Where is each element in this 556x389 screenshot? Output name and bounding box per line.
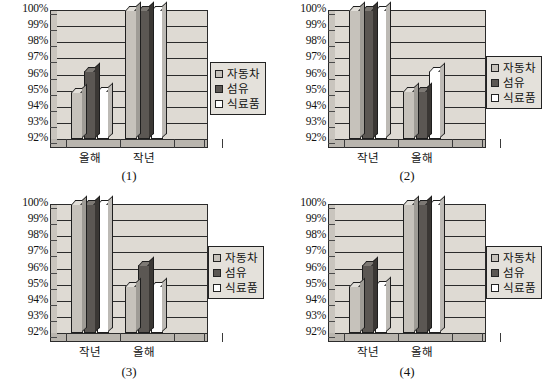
y-axis-tick-label: 93%	[6, 310, 48, 320]
plot-floor	[328, 139, 486, 148]
y-axis-tick-label: 94%	[284, 100, 326, 110]
axis-tick-mark	[328, 337, 335, 338]
y-axis-tick-label: 96%	[6, 262, 48, 272]
panel-caption-3: (3)	[0, 364, 268, 380]
legend-item-food: 식료품	[213, 280, 258, 295]
bar-side-face	[162, 1, 167, 138]
legend-swatch-icon-food	[491, 284, 499, 292]
legend-item-automobile: 자동차	[213, 250, 258, 265]
legend-swatch-icon-automobile	[491, 64, 499, 72]
floor-tick-mark	[222, 139, 223, 148]
y-axis-tick-label: 95%	[284, 278, 326, 288]
floor-tick-mark	[344, 333, 345, 342]
category-label: 올해	[63, 149, 117, 165]
y-axis-tick-label: 92%	[284, 132, 326, 142]
axis-tick-mark	[50, 111, 57, 112]
legend-item-food: 식료품	[491, 90, 536, 105]
bar-automobile	[125, 10, 137, 139]
y-axis-tick-label: 92%	[6, 132, 48, 142]
y-axis-tick-label: 97%	[284, 51, 326, 61]
axis-tick-mark	[50, 256, 57, 257]
y-axis-tick-label: 99%	[6, 213, 48, 223]
y-axis-tick-label: 99%	[284, 19, 326, 29]
gridline	[335, 333, 485, 334]
legend-item-food: 식료품	[491, 280, 536, 295]
y-axis-tick-label: 100%	[284, 3, 326, 13]
y-axis-tick-label: 93%	[284, 116, 326, 126]
legend-item-automobile: 자동차	[491, 250, 536, 265]
chart-panel-3: 100%99%98%97%96%95%94%93%92% 자동차 섬유 식료품 …	[0, 194, 278, 389]
chart-panel-2: 100%99%98%97%96%95%94%93%92% 자동차 섬유 식료품 …	[278, 0, 556, 195]
bar-side-face	[136, 278, 141, 332]
floor-tick-mark	[174, 333, 175, 342]
legend-swatch-icon-textile	[215, 85, 223, 93]
y-axis-3: 100%99%98%97%96%95%94%93%92%	[6, 202, 48, 346]
chart-panel-4: 100%99%98%97%96%95%94%93%92% 자동차 섬유 식료품 …	[278, 194, 556, 389]
legend-item-textile: 섬유	[491, 75, 536, 90]
y-axis-tick-label: 96%	[284, 68, 326, 78]
bar-automobile	[349, 286, 361, 333]
legend-label-food: 식료품	[225, 282, 258, 294]
bar-side-face	[82, 195, 87, 332]
legend-swatch-icon-automobile	[491, 254, 499, 262]
legend-item-automobile: 자동차	[215, 66, 260, 81]
y-axis-tick-label: 98%	[284, 35, 326, 45]
axis-tick-mark	[328, 79, 335, 80]
bar-automobile	[403, 91, 415, 139]
legend-2: 자동차 섬유 식료품	[486, 56, 542, 109]
axis-tick-mark	[50, 337, 57, 338]
panel-caption-2: (2)	[268, 168, 546, 184]
gridline	[335, 139, 485, 140]
axis-tick-mark	[328, 305, 335, 306]
bar-side-face	[386, 1, 391, 138]
plot-floor	[50, 139, 208, 148]
floor-tick-mark	[398, 139, 399, 148]
axis-tick-mark	[328, 46, 335, 47]
y-axis-tick-label: 95%	[6, 278, 48, 288]
category-label: 올해	[395, 149, 449, 165]
panel-caption-4: (4)	[268, 364, 546, 380]
y-axis-tick-label: 95%	[6, 84, 48, 94]
bar-side-face	[360, 278, 365, 332]
y-axis-tick-label: 100%	[284, 197, 326, 207]
axis-tick-mark	[50, 127, 57, 128]
axis-tick-mark	[328, 321, 335, 322]
y-axis-tick-label: 95%	[284, 84, 326, 94]
y-axis-2: 100%99%98%97%96%95%94%93%92%	[284, 8, 326, 152]
legend-label-food: 식료품	[503, 92, 536, 104]
plot-floor	[50, 333, 208, 342]
floor-tick-mark	[204, 139, 205, 148]
bar-side-face	[440, 63, 445, 138]
axis-tick-mark	[50, 46, 57, 47]
category-label: 작년	[63, 343, 117, 359]
floor-tick-mark	[66, 139, 67, 148]
y-axis-tick-label: 94%	[284, 294, 326, 304]
floor-tick-mark	[452, 333, 453, 342]
legend-label-automobile: 자동차	[225, 252, 258, 264]
legend-item-textile: 섬유	[215, 81, 260, 96]
legend-swatch-icon-textile	[213, 269, 221, 277]
axis-tick-mark	[50, 273, 57, 274]
legend-label-food: 식료품	[227, 98, 260, 110]
axis-tick-mark	[50, 305, 57, 306]
axis-tick-mark	[328, 256, 335, 257]
bar-side-face	[427, 82, 432, 138]
legend-3: 자동차 섬유 식료품	[208, 246, 264, 299]
bar-side-face	[440, 195, 445, 332]
bar-side-face	[427, 195, 432, 332]
bar-side-face	[108, 195, 113, 332]
bar-side-face	[162, 278, 167, 332]
y-axis-tick-label: 93%	[6, 116, 48, 126]
bar-side-face	[373, 1, 378, 138]
y-axis-tick-label: 97%	[284, 245, 326, 255]
y-axis-tick-label: 99%	[6, 19, 48, 29]
y-axis-tick-label: 100%	[6, 197, 48, 207]
plot-floor	[328, 333, 486, 342]
legend-swatch-icon-textile	[491, 79, 499, 87]
legend-item-textile: 섬유	[213, 265, 258, 280]
legend-label-food: 식료품	[503, 282, 536, 294]
axis-tick-mark	[50, 321, 57, 322]
axis-tick-mark	[328, 208, 335, 209]
y-axis-tick-label: 92%	[6, 326, 48, 336]
floor-tick-mark	[204, 333, 205, 342]
